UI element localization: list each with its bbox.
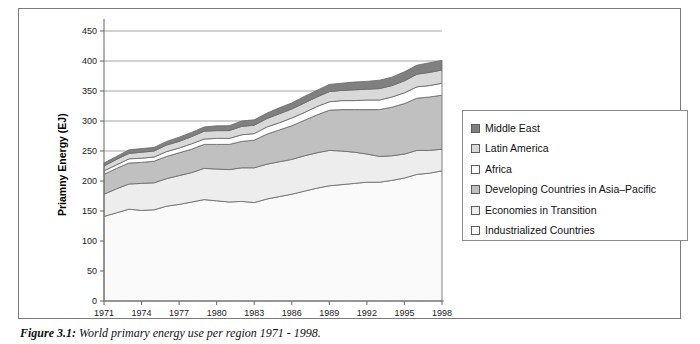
x-tick-label: 1995 [394, 308, 414, 318]
y-tick-label: 0 [92, 296, 97, 306]
legend-item[interactable]: Economies in Transition [471, 200, 679, 220]
y-tick-label: 450 [82, 26, 97, 36]
figure-caption: Figure 3.1: World primary energy use per… [20, 326, 680, 341]
legend-item-label: Middle East [485, 123, 540, 134]
legend-item-label: Economies in Transition [485, 205, 596, 216]
legend-item[interactable]: Africa [471, 159, 679, 179]
x-tick-label: 1980 [207, 308, 227, 318]
figure-caption-label: Figure 3.1: [20, 326, 76, 340]
y-axis-title: Priamny Energy (EJ) [56, 113, 68, 216]
x-tick-label: 1974 [132, 308, 152, 318]
chart-legend: Middle EastLatin AmericaAfricaDeveloping… [462, 110, 688, 241]
legend-item[interactable]: Industrialized Countries [471, 221, 679, 241]
x-tick-label: 1977 [169, 308, 189, 318]
legend-item[interactable]: Developing Countries in Asia–Pacific [471, 180, 679, 200]
legend-item-label: Developing Countries in Asia–Pacific [485, 184, 656, 195]
legend-item-label: Industrialized Countries [485, 225, 595, 236]
legend-swatch-economies-in-transition [471, 206, 480, 215]
chart-frame: 0501001502002503003504004501971197419771… [18, 8, 681, 319]
legend-item-label: Latin America [485, 143, 549, 154]
y-tick-label: 150 [82, 206, 97, 216]
y-tick-label: 250 [82, 146, 97, 156]
y-tick-label: 200 [82, 176, 97, 186]
x-tick-label: 1986 [282, 308, 302, 318]
legend-item[interactable]: Latin America [471, 139, 679, 159]
x-tick-label: 1989 [319, 308, 339, 318]
x-tick-label: 1992 [357, 308, 377, 318]
y-tick-label: 400 [82, 56, 97, 66]
x-tick-label: 1971 [94, 308, 114, 318]
figure-caption-text: World primary energy use per region 1971… [79, 326, 321, 340]
legend-swatch-latin-america [471, 144, 480, 153]
legend-item[interactable]: Middle East [471, 118, 679, 138]
y-tick-label: 50 [87, 266, 97, 276]
x-tick-label: 1983 [244, 308, 264, 318]
legend-swatch-africa [471, 165, 480, 174]
y-tick-label: 100 [82, 236, 97, 246]
legend-swatch-middle-east [471, 124, 480, 133]
figure-root: 0501001502002503003504004501971197419771… [0, 0, 700, 344]
legend-swatch-developing-asia-pacific [471, 185, 480, 194]
y-tick-label: 350 [82, 86, 97, 96]
legend-swatch-industrialized-countries [471, 226, 480, 235]
y-tick-label: 300 [82, 116, 97, 126]
legend-item-label: Africa [485, 164, 512, 175]
x-tick-label: 1998 [432, 308, 452, 318]
